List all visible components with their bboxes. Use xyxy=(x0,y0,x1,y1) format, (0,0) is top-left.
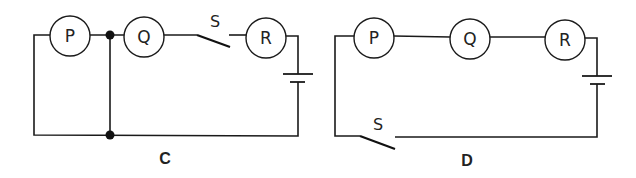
junction-dot-c-bottom xyxy=(106,131,115,140)
junction-dot-c-top xyxy=(106,31,115,40)
switch-c-blade xyxy=(197,35,230,47)
circuit-c: S P Q R C xyxy=(34,12,313,167)
lamp-d-q-label: Q xyxy=(463,29,476,49)
lamp-c-r: R xyxy=(246,18,286,58)
switch-d-label: S xyxy=(373,115,383,134)
lamp-c-q-label: Q xyxy=(137,27,150,47)
circuit-d: S P Q R D xyxy=(335,18,612,169)
switch-d-blade xyxy=(360,136,395,149)
lamp-d-r-label: R xyxy=(559,30,571,50)
switch-c-label: S xyxy=(210,12,220,31)
lamp-d-p-label: P xyxy=(369,28,379,48)
lamp-d-q: Q xyxy=(450,19,490,59)
lamp-c-p: P xyxy=(50,16,90,56)
lamp-c-p-label: P xyxy=(65,26,75,46)
wire-c-r-cell xyxy=(286,36,298,74)
lamp-c-q: Q xyxy=(124,17,164,57)
lamp-d-p: P xyxy=(354,18,394,58)
wire-d-r-cell xyxy=(585,38,597,76)
circuit-c-label: C xyxy=(159,150,171,167)
lamp-d-r: R xyxy=(545,20,585,60)
circuit-d-label: D xyxy=(461,152,473,169)
wire-d-p-q xyxy=(394,36,450,37)
wire-d-left xyxy=(335,36,360,136)
circuit-figure: S P Q R C S xyxy=(0,0,636,178)
lamp-c-r-label: R xyxy=(260,28,272,48)
wire-d-cell-bottom xyxy=(395,84,597,137)
